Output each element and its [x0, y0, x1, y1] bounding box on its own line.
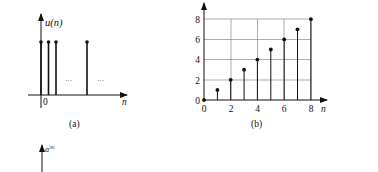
- plot-b-caption: (b): [251, 119, 262, 130]
- plot-b-y-tick-labels: 0 2 4 6 8: [195, 15, 200, 106]
- plot-b-xlabel: n: [321, 104, 326, 114]
- plot-a-stems: [41, 42, 87, 95]
- svg-text:2: 2: [229, 104, 234, 114]
- figure-canvas: u(n) 0 n ··· ··· (a): [0, 0, 378, 172]
- svg-text:6: 6: [282, 104, 287, 114]
- plot-b-x-tick-labels: 0 2 4 6 8: [202, 104, 314, 114]
- svg-text:2: 2: [195, 76, 200, 86]
- plot-a-ellipsis-1: ···: [65, 77, 72, 85]
- plot-a-ellipsis-2: ···: [97, 77, 104, 85]
- svg-text:6: 6: [195, 35, 200, 45]
- svg-text:4: 4: [255, 104, 260, 114]
- plot-b: 0 2 4 6 8 0 2 4 6 8 n (b): [195, 3, 327, 130]
- plot-a-caption: (a): [69, 119, 80, 130]
- svg-text:8: 8: [309, 104, 314, 114]
- svg-text:4: 4: [195, 55, 200, 65]
- plot-c-fragment: a|n|: [42, 144, 55, 172]
- plot-a-stem-dots: [39, 40, 89, 44]
- plot-a-ylabel: u(n): [45, 17, 63, 29]
- plot-c-ylabel: a|n|: [45, 144, 55, 154]
- svg-text:8: 8: [195, 15, 200, 25]
- plot-a-origin-label: 0: [43, 97, 48, 107]
- plot-a-xlabel: n: [122, 97, 127, 107]
- svg-text:0: 0: [195, 96, 200, 106]
- plot-a: u(n) 0 n ··· ··· (a): [28, 14, 127, 130]
- svg-text:0: 0: [202, 104, 207, 114]
